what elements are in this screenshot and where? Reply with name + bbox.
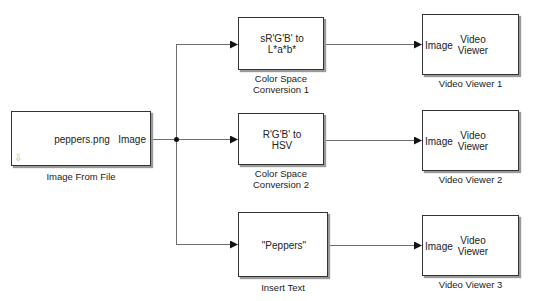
conversion-2-line1: R'G'B' to [239, 129, 325, 140]
viewer-2-line1: Video [453, 130, 493, 141]
viewer-3-line2: Viewer [453, 246, 493, 257]
conversion-2-caption-line2: Conversion 2 [238, 179, 324, 191]
viewer-1-input-port-label: Image [425, 40, 453, 51]
insert-text-caption: Insert Text [238, 282, 328, 294]
viewer-2-input-port-label: Image [425, 136, 453, 147]
video-viewer-3-block[interactable]: Image Video Viewer [422, 215, 519, 276]
source-output-port-label: Image [118, 134, 146, 145]
branch-point [174, 137, 179, 142]
image-from-file-caption: Image From File [11, 171, 151, 183]
video-viewer-1-block[interactable]: Image Video Viewer [422, 14, 519, 75]
conversion-1-line2: L*a*b* [239, 44, 325, 55]
image-from-file-block[interactable]: peppers.png Image ⇩ [11, 111, 151, 166]
conversion-1-line1: sR'G'B' to [239, 33, 325, 44]
video-viewer-2-block[interactable]: Image Video Viewer [422, 110, 519, 171]
down-arrow-icon: ⇩ [14, 152, 22, 163]
color-space-conversion-2-block[interactable]: R'G'B' to HSV [238, 113, 324, 165]
viewer-1-line2: Viewer [453, 45, 493, 56]
insert-text-content: "Peppers" [239, 240, 329, 251]
conversion-1-caption-line2: Conversion 1 [238, 84, 324, 96]
video-viewer-2-caption: Video Viewer 2 [422, 174, 519, 186]
viewer-2-line2: Viewer [453, 141, 493, 152]
viewer-3-input-port-label: Image [425, 241, 453, 252]
viewer-1-line1: Video [453, 34, 493, 45]
video-viewer-3-caption: Video Viewer 3 [422, 279, 519, 291]
color-space-conversion-1-block[interactable]: sR'G'B' to L*a*b* [238, 17, 324, 70]
viewer-3-line1: Video [453, 235, 493, 246]
insert-text-block[interactable]: "Peppers" [238, 212, 328, 277]
conversion-2-line2: HSV [239, 140, 325, 151]
video-viewer-1-caption: Video Viewer 1 [422, 78, 519, 90]
